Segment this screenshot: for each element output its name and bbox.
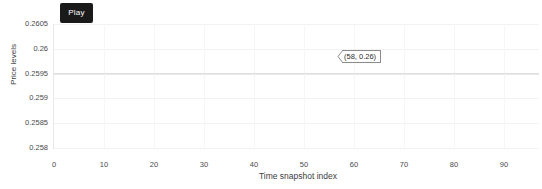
x-tick-label: 70: [389, 153, 419, 171]
data-point-tooltip[interactable]: (58, 0.26): [337, 50, 381, 63]
gridline-horizontal: [54, 74, 539, 75]
x-tick-label-text: 40: [250, 160, 258, 169]
y-tick-label: 0.2595: [0, 69, 48, 79]
gridline-horizontal: [54, 123, 539, 124]
gridline-vertical: [404, 24, 405, 148]
gridline-horizontal: [54, 24, 539, 25]
gridline-vertical: [254, 24, 255, 148]
play-button[interactable]: Play: [60, 3, 93, 23]
y-tick-label: 0.259: [0, 93, 48, 103]
x-tick-label-text: 10: [100, 160, 108, 169]
x-tick-label-text: 0: [52, 160, 56, 169]
x-tick-label: 60: [339, 153, 369, 171]
y-tick-label: 0.2585: [0, 118, 48, 128]
gridline-vertical: [354, 24, 355, 148]
y-tick-label: 0.26: [0, 44, 48, 54]
gridline-horizontal: [54, 98, 539, 99]
y-tick-label-text: 0.2585: [2, 118, 48, 127]
y-tick-label-text: 0.2605: [2, 19, 48, 28]
y-tick-label: 0.258: [0, 143, 48, 153]
x-tick-label-text: 90: [500, 160, 508, 169]
x-tick-label-text: 20: [150, 160, 158, 169]
gridline-vertical: [504, 24, 505, 148]
x-tick-label-text: 80: [450, 160, 458, 169]
x-tick-label: 30: [189, 153, 219, 171]
gridline-horizontal: [54, 148, 539, 149]
x-axis-title: Time snapshot index: [0, 171, 542, 181]
y-tick-label-text: 0.258: [2, 143, 48, 152]
x-tick-label: 20: [139, 153, 169, 171]
x-tick-label: 80: [439, 153, 469, 171]
y-axis-title: Price levels: [9, 30, 18, 100]
y-tick-label: 0.2605: [0, 19, 48, 29]
x-tick-label-text: 60: [350, 160, 358, 169]
chart-screenshot: Play 0.26050.260.25950.2590.25850.258 01…: [0, 0, 542, 189]
x-tick-label-text: 70: [400, 160, 408, 169]
y-axis-line: [53, 24, 54, 148]
x-tick-label: 90: [489, 153, 519, 171]
gridline-vertical: [104, 24, 105, 148]
gridline-vertical: [454, 24, 455, 148]
tooltip-label: (58, 0.26): [342, 50, 381, 63]
x-tick-label-text: 50: [300, 160, 308, 169]
x-tick-label-text: 30: [200, 160, 208, 169]
gridline-vertical: [154, 24, 155, 148]
gridline-vertical: [204, 24, 205, 148]
x-tick-label: 10: [89, 153, 119, 171]
x-tick-label: 50: [289, 153, 319, 171]
x-tick-label: 0: [39, 153, 69, 171]
gridline-vertical: [304, 24, 305, 148]
tooltip-arrow-left-icon: [337, 50, 343, 63]
gridline-horizontal: [54, 49, 539, 50]
x-tick-label: 40: [239, 153, 269, 171]
data-series: [54, 24, 539, 148]
